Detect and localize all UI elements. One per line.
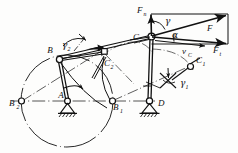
- label-gamma: γ: [165, 16, 171, 26]
- label-Ft: F: [212, 45, 219, 55]
- label-alpha: α: [172, 30, 178, 40]
- label-Fn: F: [136, 5, 143, 15]
- force-vector-Fn: [151, 15, 152, 36]
- label-B2-subscript: 2: [17, 104, 20, 110]
- label-B1: B: [113, 102, 119, 112]
- joint-C2: [102, 49, 108, 55]
- force-parallelogram-at-C: [151, 14, 228, 44]
- label-Ft-subscript: t: [220, 51, 222, 57]
- label-B2: B: [9, 98, 15, 108]
- linkage-diagram-svg: B B 2 B 1 A C C 2 C 1 D F n F F t v C α …: [0, 0, 238, 153]
- joint-C1: [188, 64, 194, 70]
- label-C2-subscript: 2: [111, 64, 114, 70]
- gamma2-ref-line: [74, 40, 83, 51]
- label-C: C: [133, 32, 140, 42]
- rocker-link-CD: [148, 38, 153, 99]
- label-vC: v: [182, 46, 186, 56]
- label-F: F: [206, 23, 213, 33]
- label-D: D: [157, 98, 165, 108]
- mechanism-figure: B B 2 B 1 A C C 2 C 1 D F n F F t v C α …: [0, 0, 238, 153]
- label-A: A: [57, 90, 64, 100]
- label-gamma1-subscript: 1: [186, 84, 189, 90]
- label-B1-subscript: 1: [120, 108, 123, 114]
- angle-arrow-gamma2: [79, 34, 86, 41]
- label-gamma2-subscript: 2: [68, 46, 71, 52]
- label-C1-subscript: 1: [203, 61, 206, 67]
- label-Fn-subscript: n: [144, 11, 147, 17]
- label-B: B: [47, 45, 53, 55]
- angle-arc-gamma: [152, 21, 165, 30]
- joint-B: [56, 56, 62, 62]
- label-vC-subscript: C: [188, 52, 192, 58]
- force-vector-Ft: [152, 37, 226, 44]
- rocker-swing-arc: [152, 49, 193, 70]
